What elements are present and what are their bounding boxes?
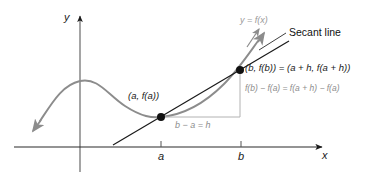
curve-right-arrow-icon — [258, 33, 264, 42]
rise-label: f(b) − f(a) = f(a + h) − f(a) — [245, 84, 339, 93]
y-axis-label: y — [64, 12, 70, 23]
secant-line-figure: y x a b y = f(x) Secant line (a, f(a)) (… — [0, 0, 377, 178]
secant-line-label: Secant line — [289, 27, 341, 38]
run-label: b − a = h — [175, 121, 211, 130]
point-b-label: (b, f(b)) = (a + h, f(a + h)) — [245, 63, 350, 73]
point-a-label: (a, f(a)) — [128, 91, 159, 101]
function-label: y = f(x) — [240, 16, 268, 25]
point-b-marker — [236, 66, 244, 74]
tick-label-a: a — [158, 151, 164, 162]
tick-label-b: b — [238, 151, 244, 162]
point-a-marker — [157, 113, 165, 121]
x-axis-label: x — [322, 150, 328, 161]
function-label-leader-icon — [247, 29, 259, 47]
function-curve — [40, 41, 258, 121]
curve-left-arrow-icon — [33, 120, 41, 131]
